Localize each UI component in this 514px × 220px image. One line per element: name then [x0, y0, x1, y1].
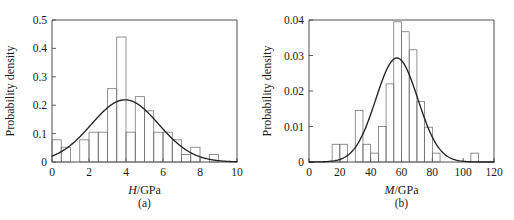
- y-tick-label: 0.1: [33, 128, 48, 140]
- histogram-bar: [89, 132, 98, 162]
- histogram-bar: [409, 50, 417, 162]
- histogram-bar: [425, 127, 433, 162]
- chart-panel-b: 00.010.020.030.04020406080100120M/GPaPro…: [257, 0, 514, 220]
- plot-svg: 00.10.20.30.40.50246810H/GPaProbability …: [0, 0, 257, 220]
- histogram-bar: [145, 111, 154, 162]
- y-tick-label: 0: [298, 156, 304, 168]
- histogram-bar: [80, 140, 89, 162]
- x-tick-label: 0: [49, 166, 55, 178]
- histogram-bar: [108, 89, 117, 162]
- histogram-bar: [135, 97, 144, 162]
- panel-caption: (a): [138, 197, 151, 210]
- x-tick-label: 60: [396, 166, 408, 178]
- x-tick-label: 100: [455, 166, 473, 178]
- histogram-bar: [126, 132, 135, 162]
- x-tick-label: 120: [485, 166, 503, 178]
- x-axis-title: M/GPa: [384, 183, 420, 197]
- histogram-bar: [402, 32, 410, 162]
- histogram-bar: [52, 140, 61, 162]
- y-axis-title: Probability density: [3, 46, 17, 137]
- chart-panel-a: 00.10.20.30.40.50246810H/GPaProbability …: [0, 0, 257, 220]
- x-tick-label: 4: [123, 166, 129, 178]
- histogram-bar: [471, 153, 479, 162]
- x-tick-label: 10: [231, 166, 243, 178]
- y-tick-label: 0.01: [284, 121, 304, 133]
- histogram-bar: [154, 132, 163, 162]
- y-tick-label: 0: [41, 156, 47, 168]
- histogram-bar: [432, 153, 440, 162]
- histogram-bars: [332, 22, 478, 162]
- histogram-bar: [417, 102, 425, 162]
- x-tick-label: 80: [427, 166, 439, 178]
- histogram-bars: [52, 37, 219, 162]
- histogram-bar: [363, 144, 371, 162]
- x-axis-title: H/GPa: [127, 183, 161, 197]
- x-tick-label: 8: [197, 166, 203, 178]
- x-tick-label: 2: [86, 166, 92, 178]
- x-tick-label: 40: [365, 166, 377, 178]
- x-tick-label: 20: [334, 166, 346, 178]
- panel-caption: (b): [395, 197, 409, 210]
- y-tick-label: 0.02: [284, 85, 304, 97]
- histogram-bar: [378, 127, 386, 163]
- histogram-bar: [182, 155, 191, 162]
- y-tick-label: 0.2: [33, 99, 48, 111]
- histogram-bar: [371, 153, 379, 162]
- y-tick-label: 0.04: [284, 14, 304, 26]
- x-tick-label: 6: [160, 166, 166, 178]
- histogram-bar: [98, 132, 107, 162]
- y-tick-label: 0.03: [284, 50, 304, 62]
- y-axis-title: Probability density: [260, 46, 274, 137]
- histogram-bar: [394, 22, 402, 162]
- figure-container: 00.10.20.30.40.50246810H/GPaProbability …: [0, 0, 514, 220]
- plot-svg: 00.010.020.030.04020406080100120M/GPaPro…: [257, 0, 514, 220]
- histogram-bar: [386, 84, 394, 162]
- y-tick-label: 0.5: [33, 14, 48, 26]
- y-tick-label: 0.3: [33, 71, 48, 83]
- x-tick-label: 0: [306, 166, 312, 178]
- y-tick-label: 0.4: [33, 42, 48, 54]
